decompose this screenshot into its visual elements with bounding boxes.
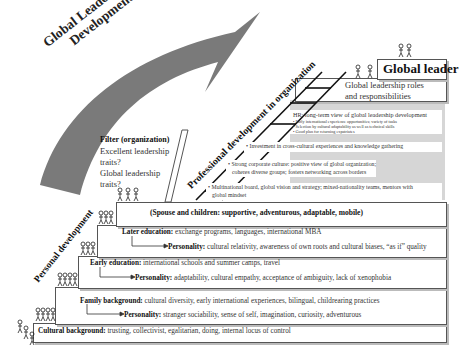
- person-icon: [99, 211, 103, 224]
- person-icon: [58, 273, 62, 286]
- person-icon: [18, 320, 22, 333]
- people-figures: [0, 0, 460, 361]
- person-icon: [46, 308, 50, 321]
- person-icon: [36, 308, 40, 321]
- person-icon: [368, 65, 372, 78]
- person-icon: [81, 242, 85, 255]
- person-icon: [73, 273, 77, 286]
- person-icon: [356, 65, 360, 78]
- person-icon: [407, 44, 411, 57]
- person-icon: [126, 188, 130, 201]
- person-icon: [51, 308, 55, 321]
- person-icon: [104, 211, 108, 224]
- person-icon: [24, 326, 28, 339]
- person-icon: [134, 188, 138, 201]
- person-icon: [91, 242, 95, 255]
- person-icon: [68, 273, 72, 286]
- person-icon: [399, 44, 403, 57]
- person-icon: [30, 332, 34, 345]
- person-icon: [118, 188, 122, 201]
- person-icon: [63, 273, 67, 286]
- person-icon: [109, 211, 113, 224]
- person-icon: [86, 242, 90, 255]
- person-icon: [41, 308, 45, 321]
